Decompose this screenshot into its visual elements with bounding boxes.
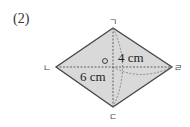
vertex-label-top: ㄱ bbox=[109, 17, 117, 27]
dimension-6cm: 6 cm bbox=[80, 69, 106, 84]
vertex-label-right: ㄹ bbox=[174, 63, 182, 73]
vertex-label-bottom: ㄷ bbox=[109, 112, 117, 122]
vertex-label-left: ㄴ bbox=[43, 63, 51, 73]
rhombus-diagram: ㄱ ㄴ ㄷ ㄹ 4 cm 6 cm bbox=[0, 0, 190, 127]
dimension-4cm: 4 cm bbox=[118, 50, 144, 65]
